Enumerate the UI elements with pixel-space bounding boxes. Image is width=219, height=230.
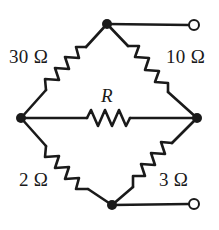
zigzag-2-ohm	[45, 146, 88, 189]
resistor-30-ohm	[21, 24, 107, 118]
lead-right-to-3ohm	[172, 118, 197, 143]
node-bottom-dot	[107, 200, 117, 210]
resistor-2-ohm	[21, 118, 112, 205]
resistor-label-top-right: 10 Ω	[166, 47, 205, 66]
lead-10ohm-to-right	[168, 92, 197, 118]
zigzag-10-ohm	[128, 46, 168, 92]
lead-left-to-30ohm	[21, 90, 46, 118]
resistor-label-bottom-right: 3 Ω	[159, 170, 188, 189]
resistor-10-ohm	[107, 24, 197, 118]
circuit-diagram: 30 Ω 10 Ω 2 Ω 3 Ω R	[0, 0, 219, 230]
resistor-label-top-left: 30 Ω	[9, 47, 48, 66]
node-left-dot	[16, 113, 26, 123]
resistor-label-bridge: R	[101, 86, 113, 105]
circuit-svg	[0, 0, 219, 230]
resistor-label-bottom-left: 2 Ω	[19, 170, 48, 189]
node-top-dot	[102, 19, 112, 29]
lead-left-to-2ohm	[21, 118, 46, 146]
node-right-dot	[192, 113, 202, 123]
terminal-top-circle-icon	[189, 20, 199, 30]
resistor-R-bridge	[21, 110, 197, 126]
terminal-bottom-circle-icon	[189, 199, 199, 209]
lead-bottom-terminal	[112, 204, 189, 205]
zigzag-R	[87, 110, 130, 126]
resistor-3-ohm	[112, 118, 197, 205]
zigzag-30-ohm	[45, 47, 86, 90]
lead-top-terminal	[107, 24, 189, 25]
